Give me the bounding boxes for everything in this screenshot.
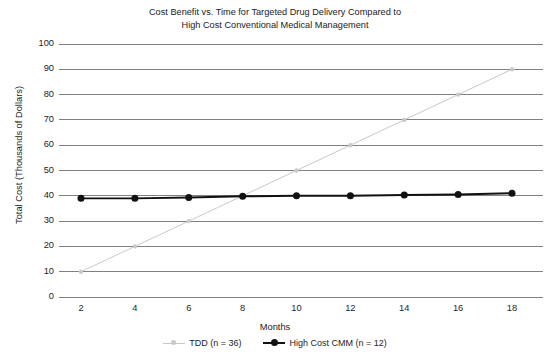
data-point (510, 67, 514, 71)
legend-marker-icon (163, 339, 185, 348)
x-axis-tick-label: 12 (330, 303, 370, 313)
data-point (294, 168, 298, 172)
y-axis-tick-label: 10 (18, 266, 54, 276)
y-axis-tick-label: 50 (18, 165, 54, 175)
gridlines (59, 44, 543, 297)
data-point (131, 195, 138, 202)
chart-legend: TDD (n = 36)High Cost CMM (n = 12) (0, 338, 550, 348)
data-point (293, 192, 300, 199)
data-point (455, 191, 462, 198)
data-point (402, 118, 406, 122)
x-axis-tick-label: 10 (277, 303, 317, 313)
y-axis-tick-label: 100 (18, 38, 54, 48)
chart-figure: Cost Benefit vs. Time for Targeted Drug … (0, 0, 550, 362)
x-axis-tick-label: 6 (169, 303, 209, 313)
data-point (78, 195, 85, 202)
legend-marker-icon (263, 339, 285, 348)
x-axis-tick-label: 2 (61, 303, 101, 313)
legend-label: TDD (n = 36) (189, 338, 241, 348)
y-axis-tick-label: 80 (18, 89, 54, 99)
y-axis-tick-label: 0 (18, 291, 54, 301)
data-point (133, 244, 137, 248)
x-axis-tick-label: 16 (438, 303, 478, 313)
data-point (509, 190, 516, 197)
y-axis-tick-label: 60 (18, 139, 54, 149)
data-point (79, 270, 83, 274)
x-axis-tick-label: 8 (223, 303, 263, 313)
y-axis-tick-label: 90 (18, 63, 54, 73)
data-point (401, 192, 408, 199)
x-axis-title: Months (0, 322, 550, 332)
x-axis-tick-label: 18 (492, 303, 532, 313)
data-point (456, 92, 460, 96)
y-axis-tick-label: 20 (18, 240, 54, 250)
data-point (185, 194, 192, 201)
data-point (187, 219, 191, 223)
data-point (348, 143, 352, 147)
data-point (347, 192, 354, 199)
x-axis-tick-label: 14 (384, 303, 424, 313)
y-axis-tick-label: 40 (18, 190, 54, 200)
x-axis-tick-label: 4 (115, 303, 155, 313)
y-axis-tick-label: 30 (18, 215, 54, 225)
legend-item-tdd[interactable]: TDD (n = 36) (163, 338, 241, 348)
legend-label: High Cost CMM (n = 12) (289, 338, 386, 348)
legend-item-cmm[interactable]: High Cost CMM (n = 12) (263, 338, 386, 348)
data-point (239, 193, 246, 200)
y-axis-tick-label: 70 (18, 114, 54, 124)
